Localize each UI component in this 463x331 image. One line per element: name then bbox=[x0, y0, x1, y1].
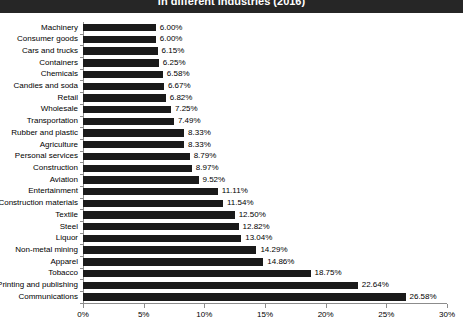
bar bbox=[83, 235, 241, 242]
category-label: Containers bbox=[39, 57, 78, 68]
bar-row: Consumer goods6.00% bbox=[83, 34, 447, 46]
bar-value-label: 8.97% bbox=[196, 162, 219, 173]
bar-row: Transportation7.49% bbox=[83, 116, 447, 128]
category-label: Chemicals bbox=[41, 68, 78, 79]
bar-row: Agriculture8.33% bbox=[83, 139, 447, 151]
bar-value-label: 8.33% bbox=[188, 139, 211, 150]
category-label: Tobacco bbox=[48, 267, 78, 278]
bar bbox=[83, 188, 218, 195]
category-label: Non-metal mining bbox=[15, 244, 78, 255]
bar bbox=[83, 141, 184, 148]
bar-row: Chemicals6.58% bbox=[83, 69, 447, 81]
x-axis-tick bbox=[386, 304, 387, 308]
x-axis-tick-label: 30% bbox=[439, 310, 455, 319]
bar bbox=[83, 59, 159, 66]
bar-row: Retail6.82% bbox=[83, 92, 447, 104]
category-label: Liquor bbox=[56, 232, 78, 243]
chart-title-band: in different industries (2016) bbox=[0, 0, 463, 13]
bar-value-label: 7.49% bbox=[178, 115, 201, 126]
category-label: Rubber and plastic bbox=[11, 127, 78, 138]
category-label: Printing and publishing bbox=[0, 279, 78, 290]
bar-value-label: 26.58% bbox=[410, 291, 437, 302]
bar-value-label: 6.00% bbox=[160, 22, 183, 33]
bar bbox=[83, 246, 256, 253]
bar bbox=[83, 282, 358, 289]
bar bbox=[83, 83, 164, 90]
bar-row: Rubber and plastic8.33% bbox=[83, 127, 447, 139]
category-label: Textile bbox=[55, 209, 78, 220]
bar-row: Personal services8.79% bbox=[83, 151, 447, 163]
bar-row: Steel12.82% bbox=[83, 221, 447, 233]
bar-row: Liquor13.04% bbox=[83, 233, 447, 245]
bar-row: Aviation9.52% bbox=[83, 174, 447, 186]
bar-row: Wholesale7.25% bbox=[83, 104, 447, 116]
bar-value-label: 8.79% bbox=[194, 150, 217, 161]
category-label: Transportation bbox=[27, 115, 78, 126]
bar-row: Tobacco18.75% bbox=[83, 268, 447, 280]
category-label: Construction bbox=[33, 162, 78, 173]
bar-value-label: 18.75% bbox=[315, 267, 342, 278]
category-label: Entertainment bbox=[28, 185, 78, 196]
chart-title: in different industries (2016) bbox=[0, 0, 463, 8]
bar bbox=[83, 211, 235, 218]
x-axis-tick bbox=[144, 304, 145, 308]
bar bbox=[83, 223, 239, 230]
x-axis-tick-label: 25% bbox=[378, 310, 394, 319]
x-axis-tick-label: 10% bbox=[196, 310, 212, 319]
bar-row: Cars and trucks6.15% bbox=[83, 45, 447, 57]
category-label: Agriculture bbox=[40, 139, 78, 150]
x-axis-tick bbox=[265, 304, 266, 308]
bar bbox=[83, 200, 223, 207]
x-axis-tick-label: 5% bbox=[138, 310, 150, 319]
category-label: Retail bbox=[58, 92, 78, 103]
bar bbox=[83, 106, 171, 113]
category-label: Construction materials bbox=[0, 197, 78, 208]
bar bbox=[83, 118, 174, 125]
bar bbox=[83, 47, 158, 54]
x-axis-tick-label: 15% bbox=[257, 310, 273, 319]
bar bbox=[83, 270, 311, 277]
plot-area: Machinery6.00%Consumer goods6.00%Cars an… bbox=[83, 22, 447, 303]
category-label: Wholesale bbox=[41, 103, 78, 114]
x-axis-tick bbox=[83, 304, 84, 308]
bar bbox=[83, 153, 190, 160]
x-axis-tick bbox=[326, 304, 327, 308]
category-label: Communications bbox=[18, 291, 78, 302]
bar bbox=[83, 176, 199, 183]
bar-value-label: 22.64% bbox=[362, 279, 389, 290]
bar-row: Printing and publishing22.64% bbox=[83, 280, 447, 292]
bar-value-label: 14.86% bbox=[267, 256, 294, 267]
bar-value-label: 6.25% bbox=[163, 57, 186, 68]
bar-value-label: 6.82% bbox=[170, 92, 193, 103]
bar bbox=[83, 129, 184, 136]
bar-row: Textile12.50% bbox=[83, 209, 447, 221]
category-label: Personal services bbox=[15, 150, 78, 161]
category-label: Consumer goods bbox=[17, 33, 78, 44]
bar-row: Non-metal mining14.29% bbox=[83, 244, 447, 256]
bar-value-label: 6.00% bbox=[160, 33, 183, 44]
bar-value-label: 6.15% bbox=[162, 45, 185, 56]
bar bbox=[83, 258, 263, 265]
category-label: Aviation bbox=[50, 174, 78, 185]
bar-row: Entertainment11.11% bbox=[83, 186, 447, 198]
category-label: Machinery bbox=[41, 22, 78, 33]
x-axis-tick-label: 0% bbox=[77, 310, 89, 319]
bar-value-label: 8.33% bbox=[188, 127, 211, 138]
bar-value-label: 12.50% bbox=[239, 209, 266, 220]
bar-value-label: 7.25% bbox=[175, 103, 198, 114]
x-axis-tick-label: 20% bbox=[318, 310, 334, 319]
bar-row: Apparel14.86% bbox=[83, 256, 447, 268]
bar-value-label: 11.11% bbox=[222, 185, 248, 196]
category-label: Apparel bbox=[50, 256, 78, 267]
bar bbox=[83, 293, 406, 300]
bar-row: Communications26.58% bbox=[83, 291, 447, 303]
bar-value-label: 6.67% bbox=[168, 80, 191, 91]
x-axis-tick bbox=[447, 304, 448, 308]
bar-row: Construction8.97% bbox=[83, 163, 447, 175]
bar-value-label: 14.29% bbox=[260, 244, 287, 255]
bar-row: Construction materials11.54% bbox=[83, 198, 447, 210]
bar bbox=[83, 165, 192, 172]
bar bbox=[83, 71, 163, 78]
bar bbox=[83, 94, 166, 101]
bar-row: Containers6.25% bbox=[83, 57, 447, 69]
